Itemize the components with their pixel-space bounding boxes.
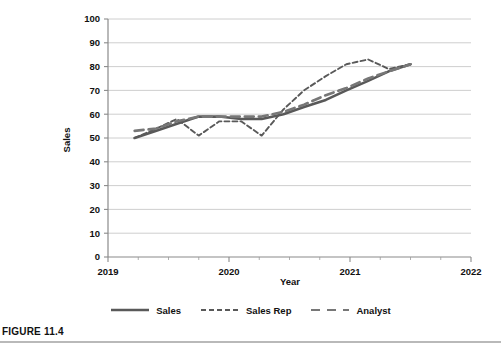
y-axis-title: Sales (61, 128, 72, 153)
caption-block: FIGURE 11.4 (0, 326, 501, 343)
y-tick-label: 10 (89, 228, 100, 239)
y-tick-label: 40 (89, 156, 100, 167)
y-tick-label: 70 (89, 85, 100, 96)
x-tick-label: 2019 (97, 266, 118, 277)
y-axis (104, 19, 108, 257)
y-tick-label: 20 (89, 204, 100, 215)
chart-plot-area: 0102030405060708090100 2019202020212022 … (0, 0, 501, 300)
y-tick-label: 100 (84, 13, 100, 24)
x-tick-label: 2021 (339, 266, 361, 277)
figure-caption: FIGURE 11.4 (0, 326, 501, 341)
legend-item-analyst[interactable]: Analyst (310, 305, 390, 316)
legend-item-sales-rep[interactable]: Sales Rep (200, 305, 291, 316)
legend-label: Sales (156, 305, 181, 316)
caption-divider (0, 341, 501, 343)
y-axis-tick-labels: 0102030405060708090100 (84, 13, 100, 262)
legend-swatch-dashed-short (200, 305, 240, 315)
y-tick-label: 90 (89, 37, 100, 48)
y-tick-label: 60 (89, 109, 100, 120)
y-tick-label: 0 (95, 251, 100, 262)
legend-swatch-dashed-long (310, 305, 350, 315)
x-axis-ticks (108, 257, 471, 262)
y-tick-label: 30 (89, 180, 100, 191)
x-tick-label: 2020 (218, 266, 239, 277)
data-series-group (135, 59, 411, 138)
series-line-sales-rep (135, 59, 411, 138)
legend-label: Sales Rep (246, 305, 291, 316)
legend-label: Analyst (356, 305, 390, 316)
line-chart: 0102030405060708090100 2019202020212022 … (0, 0, 501, 300)
y-tick-label: 50 (89, 132, 100, 143)
legend-item-sales[interactable]: Sales (110, 305, 181, 316)
x-tick-label: 2022 (460, 266, 481, 277)
y-tick-label: 80 (89, 61, 100, 72)
chart-legend: SalesSales RepAnalyst (0, 298, 501, 322)
x-axis-title: Year (280, 276, 300, 287)
figure-container: 0102030405060708090100 2019202020212022 … (0, 0, 501, 358)
series-line-analyst (135, 64, 411, 131)
legend-swatch-solid (110, 305, 150, 315)
series-line-sales (135, 64, 411, 138)
